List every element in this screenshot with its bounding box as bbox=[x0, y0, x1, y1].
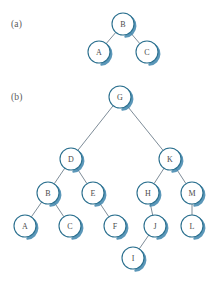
node-label: F bbox=[113, 222, 118, 231]
tree-edge-D-B bbox=[54, 168, 65, 184]
tree-edge-G-K bbox=[127, 106, 163, 151]
panel-caption-b: (b) bbox=[11, 92, 23, 103]
tree-node-d: D bbox=[60, 148, 83, 172]
tree-node-b: B bbox=[37, 182, 60, 206]
node-label: I bbox=[132, 254, 135, 263]
tree-node-e: E bbox=[82, 182, 105, 206]
node-label: H bbox=[145, 189, 151, 198]
tree-node-i: I bbox=[122, 247, 145, 271]
tree-edge-K-H bbox=[154, 168, 164, 184]
node-layer: BAC bbox=[88, 13, 159, 65]
figure-root: (a)BAC (b)GDKBEHMACFJLI bbox=[0, 0, 219, 281]
tree-edge-G-D bbox=[78, 106, 113, 151]
panel-caption-a: (a) bbox=[11, 19, 22, 30]
node-label: C bbox=[144, 48, 149, 57]
node-label: D bbox=[68, 155, 74, 164]
node-label: C bbox=[67, 222, 72, 231]
tree-node-m: M bbox=[181, 182, 204, 206]
node-label: M bbox=[188, 189, 195, 198]
node-label: E bbox=[91, 189, 96, 198]
tree-node-j: J bbox=[144, 215, 167, 239]
node-label: K bbox=[167, 155, 173, 164]
node-label: G bbox=[117, 93, 123, 102]
tree-node-k: K bbox=[159, 148, 182, 172]
node-label: B bbox=[120, 20, 125, 29]
tree-edge-B-A bbox=[31, 202, 41, 217]
panel-b: (b)GDKBEHMACFJLI bbox=[11, 86, 204, 271]
node-label: L bbox=[190, 222, 195, 231]
tree-node-l: L bbox=[181, 215, 204, 239]
tree-node-c: C bbox=[136, 41, 159, 65]
node-label: A bbox=[96, 48, 102, 57]
tree-node-c: C bbox=[59, 215, 82, 239]
tree-node-a: A bbox=[14, 215, 37, 239]
tree-edge-J-I bbox=[139, 235, 149, 249]
node-layer: GDKBEHMACFJLI bbox=[14, 86, 204, 271]
node-label: J bbox=[153, 222, 156, 231]
tree-node-f: F bbox=[104, 215, 127, 239]
node-label: B bbox=[45, 189, 50, 198]
tree-node-a: A bbox=[88, 41, 111, 65]
panel-a: (a)BAC bbox=[11, 13, 159, 65]
tree-edge-B-A bbox=[106, 32, 116, 43]
tree-diagram-canvas: (a)BAC (b)GDKBEHMACFJLI bbox=[0, 0, 219, 281]
tree-node-h: H bbox=[137, 182, 160, 206]
node-label: A bbox=[22, 222, 28, 231]
